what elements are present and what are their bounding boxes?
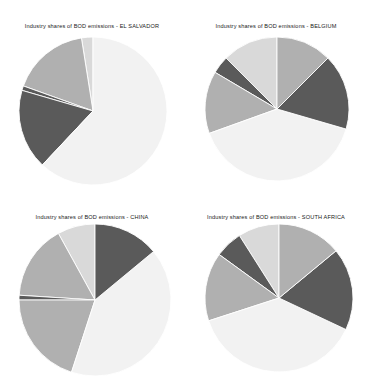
pie-panel-el-salvador: Industry shares of BOD emissions - EL SA… [0,0,184,190]
pie-panel-south-africa: Industry shares of BOD emissions - SOUTH… [184,191,368,381]
pie-holder-el-salvador [0,0,184,190]
pie-holder-belgium [184,0,368,190]
pie-holder-south-africa [184,191,368,381]
pie-chart-el-salvador [18,36,168,186]
pie-panel-china: Industry shares of BOD emissions - CHINA [0,191,184,381]
figure-canvas: Industry shares of BOD emissions - EL SA… [0,0,368,381]
pie-chart-belgium [204,36,350,182]
pie-panel-belgium: Industry shares of BOD emissions - BELGI… [184,0,368,190]
pie-holder-china [0,191,184,381]
pie-chart-china [18,223,172,377]
pie-chart-south-africa [204,223,354,373]
